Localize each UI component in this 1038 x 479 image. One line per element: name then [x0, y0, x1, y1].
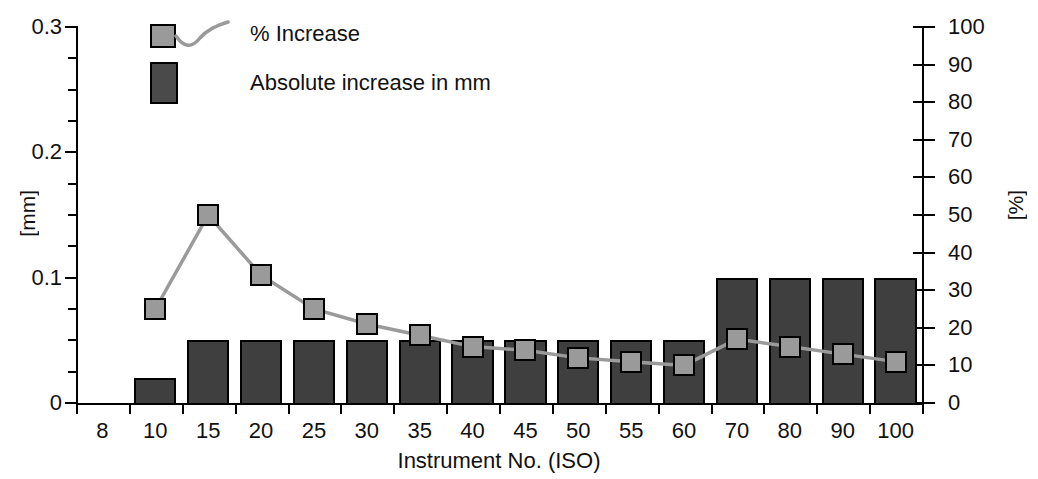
- right-axis-tick-label: 100: [948, 16, 1008, 38]
- right-axis-tick-label: 30: [948, 279, 1008, 301]
- legend-swatch-square-icon: [150, 24, 176, 48]
- right-axis-spine: [922, 27, 924, 405]
- left-axis-tick: [65, 277, 78, 279]
- line-marker: [514, 339, 536, 361]
- line-marker: [303, 298, 325, 320]
- chart-figure: [mm] [%] 0.30.20.10 10090807060504030201…: [0, 0, 1038, 479]
- line-marker: [197, 204, 219, 226]
- right-axis-tick-label: 70: [948, 129, 1008, 151]
- bar: [187, 340, 229, 405]
- right-axis-tick-label: 50: [948, 204, 1008, 226]
- left-axis-tick: [68, 183, 78, 185]
- x-axis-tick: [182, 403, 184, 414]
- bar: [399, 340, 441, 405]
- line-marker: [409, 324, 431, 346]
- x-axis-tick: [129, 403, 131, 414]
- x-axis-title: Instrument No. (ISO): [0, 449, 998, 473]
- left-axis-tick-label: 0.3: [6, 16, 62, 38]
- legend-line-squiggle-icon: [174, 18, 230, 54]
- right-axis-tick-label: 90: [948, 54, 1008, 76]
- line-marker: [673, 354, 695, 376]
- right-axis-tick: [913, 214, 935, 216]
- legend-label-percent-increase: % Increase: [250, 21, 360, 47]
- line-marker: [144, 298, 166, 320]
- bar: [822, 278, 864, 405]
- right-axis-tick-label: 40: [948, 242, 1008, 264]
- right-axis-tick: [913, 176, 935, 178]
- x-axis-tick: [340, 403, 342, 414]
- x-axis-tick: [552, 403, 554, 414]
- x-axis-tick: [711, 403, 713, 414]
- right-axis-tick: [913, 26, 935, 28]
- line-marker: [620, 351, 642, 373]
- line-marker: [567, 347, 589, 369]
- left-axis-tick: [65, 151, 78, 153]
- line-marker: [462, 336, 484, 358]
- left-axis-unit-label: [mm]: [16, 190, 40, 237]
- x-axis-tick: [499, 403, 501, 414]
- right-axis-tick: [913, 139, 935, 141]
- x-axis-tick: [446, 403, 448, 414]
- x-axis-tick: [605, 403, 607, 414]
- line-marker: [726, 328, 748, 350]
- x-axis-tick: [816, 403, 818, 414]
- right-axis-tick: [913, 252, 935, 254]
- left-axis-tick-label: 0.1: [6, 267, 62, 289]
- line-marker: [832, 343, 854, 365]
- left-axis-tick: [68, 57, 78, 59]
- right-axis-tick: [913, 101, 935, 103]
- right-axis-tick-label: 10: [948, 354, 1008, 376]
- x-axis-tick: [393, 403, 395, 414]
- left-axis-tick-label: 0.2: [6, 141, 62, 163]
- left-axis-tick-label: 0: [6, 392, 62, 414]
- x-axis-tick: [922, 403, 924, 414]
- x-axis-tick-label: 100: [861, 420, 931, 442]
- legend-label-absolute-increase: Absolute increase in mm: [250, 70, 491, 96]
- x-axis-tick: [869, 403, 871, 414]
- left-axis-tick: [65, 26, 78, 28]
- left-axis-spine: [76, 27, 78, 405]
- x-axis-tick: [763, 403, 765, 414]
- right-axis-tick: [913, 64, 935, 66]
- right-axis-tick-label: 80: [948, 91, 1008, 113]
- left-axis-tick: [68, 89, 78, 91]
- x-axis-tick: [76, 403, 78, 414]
- left-axis-tick: [68, 339, 78, 341]
- line-marker: [885, 351, 907, 373]
- left-axis-tick: [68, 308, 78, 310]
- x-axis-tick: [658, 403, 660, 414]
- bar: [134, 378, 176, 405]
- left-axis-tick: [68, 245, 78, 247]
- bar: [293, 340, 335, 405]
- x-axis-tick: [288, 403, 290, 414]
- x-axis-tick: [235, 403, 237, 414]
- right-axis-tick-label: 20: [948, 317, 1008, 339]
- left-axis-tick: [68, 120, 78, 122]
- line-marker: [779, 336, 801, 358]
- bar: [874, 278, 916, 405]
- line-marker: [356, 313, 378, 335]
- right-axis-tick-label: 0: [948, 392, 1008, 414]
- bar: [346, 340, 388, 405]
- left-axis-tick: [68, 214, 78, 216]
- bar: [240, 340, 282, 405]
- left-axis-tick: [68, 371, 78, 373]
- legend-swatch-bar-icon: [150, 62, 178, 104]
- line-marker: [250, 264, 272, 286]
- right-axis-tick-label: 60: [948, 166, 1008, 188]
